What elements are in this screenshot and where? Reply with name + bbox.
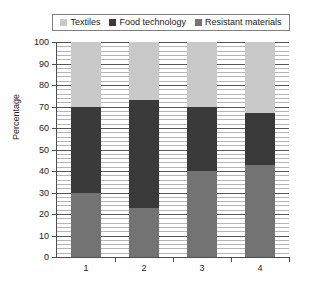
y-axis-title-label: Percentage — [11, 94, 21, 140]
y-axis-tick — [52, 214, 57, 215]
y-axis-tick — [52, 236, 57, 237]
y-axis-tick — [52, 193, 57, 194]
plot-frame: 01020304050607080901001234 — [57, 42, 289, 257]
legend-swatch-icon — [109, 19, 116, 26]
y-axis-tick-label: 20 — [39, 210, 49, 219]
bar-segment — [187, 171, 217, 257]
y-axis-tick — [52, 107, 57, 108]
bar-segment — [245, 165, 275, 257]
bar-segment — [71, 107, 101, 193]
bar-segment — [187, 42, 217, 107]
y-axis-tick — [52, 171, 57, 172]
bar-stack — [71, 42, 101, 257]
x-axis-tick-label: 1 — [83, 264, 88, 273]
x-axis-tick — [115, 257, 116, 262]
y-axis-tick — [52, 257, 57, 258]
x-axis-tick-label: 2 — [141, 264, 146, 273]
legend-entry: Textiles — [60, 18, 100, 27]
legend-entry: Food technology — [109, 18, 186, 27]
bar-segment — [71, 42, 101, 107]
x-axis-tick — [289, 257, 290, 262]
y-axis-tick-label: 90 — [39, 60, 49, 69]
y-axis-tick-label: 80 — [39, 81, 49, 90]
legend-label: Food technology — [119, 18, 186, 27]
bar-stack — [187, 42, 217, 257]
y-axis-tick — [52, 150, 57, 151]
legend-label: Resistant materials — [205, 18, 282, 27]
legend-swatch-icon — [60, 19, 67, 26]
y-axis-tick-label: 40 — [39, 167, 49, 176]
y-axis-tick-label: 60 — [39, 124, 49, 133]
y-axis-tick-label: 0 — [44, 253, 49, 262]
stacked-bar-chart: TextilesFood technologyResistant materia… — [0, 0, 311, 287]
y-axis-tick — [52, 128, 57, 129]
bar-stack — [129, 42, 159, 257]
bar-segment — [187, 107, 217, 172]
bar-stack — [245, 42, 275, 257]
bar-segment — [129, 100, 159, 208]
legend-swatch-icon — [195, 19, 202, 26]
chart-legend: TextilesFood technologyResistant materia… — [52, 14, 290, 31]
x-axis-tick-label: 3 — [199, 264, 204, 273]
y-axis-tick-label: 10 — [39, 232, 49, 241]
bar-segment — [245, 42, 275, 113]
y-axis-tick-label: 30 — [39, 189, 49, 198]
y-axis-tick — [52, 64, 57, 65]
y-axis-tick-label: 70 — [39, 103, 49, 112]
x-axis-tick — [173, 257, 174, 262]
y-axis-tick-label: 50 — [39, 146, 49, 155]
bar-segment — [129, 42, 159, 100]
legend-entry: Resistant materials — [195, 18, 282, 27]
y-axis-tick — [52, 42, 57, 43]
y-axis-title: Percentage — [6, 0, 26, 234]
bar-segment — [129, 208, 159, 257]
x-axis-tick — [231, 257, 232, 262]
bar-segment — [245, 113, 275, 165]
y-axis-tick — [52, 85, 57, 86]
bar-segment — [71, 193, 101, 258]
y-axis-tick-label: 100 — [34, 38, 49, 47]
legend-label: Textiles — [70, 18, 100, 27]
x-axis-tick-label: 4 — [257, 264, 262, 273]
